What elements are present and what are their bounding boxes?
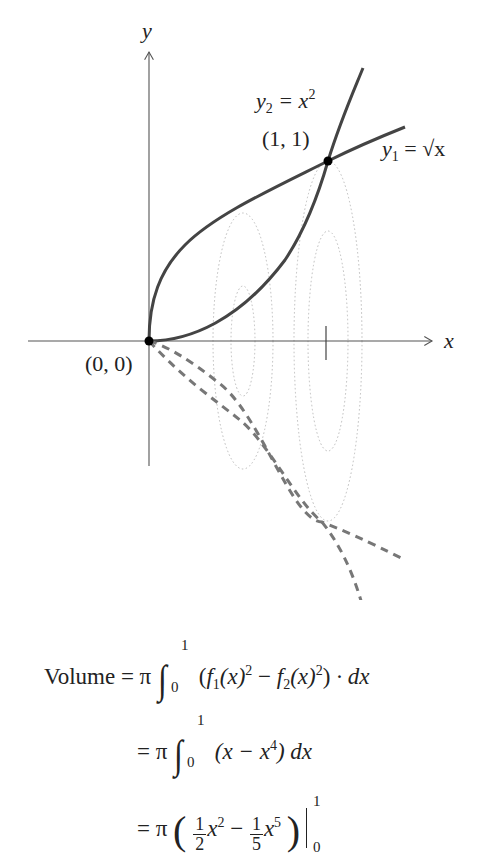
eval-upper: 1 xyxy=(313,794,321,809)
y1-var: y xyxy=(382,136,392,161)
y2-sub: 2 xyxy=(266,101,273,116)
integral-sign: ∫ xyxy=(158,660,167,700)
term2-sup: 5 xyxy=(274,815,281,830)
term2: x xyxy=(264,816,274,841)
integral-sign: ∫ xyxy=(174,735,183,775)
f2-arg: (x) xyxy=(290,664,316,689)
reflected-curve-y2 xyxy=(149,341,405,560)
equals-pi: = π xyxy=(137,816,167,841)
f1-sub: 1 xyxy=(213,677,220,692)
y1-rhs: = √x xyxy=(404,136,445,161)
dx: · dx xyxy=(330,664,369,689)
minus: − xyxy=(224,816,248,841)
upper-limit: 1 xyxy=(197,713,205,728)
y1-sub: 1 xyxy=(392,149,399,164)
y2-sup: 2 xyxy=(308,87,315,102)
integrand-close: ) dx xyxy=(277,739,312,764)
point-origin xyxy=(145,337,154,346)
volume-equation-line-3: = π ( 12x2 − 15x5 ) 1 0 xyxy=(137,808,327,853)
y1-curve-label: y1 = √x xyxy=(382,138,445,164)
equals-pi: = π xyxy=(137,739,167,764)
x-axis-label: x xyxy=(444,330,454,352)
y2-var: y xyxy=(256,88,266,113)
point-1-1 xyxy=(324,157,333,166)
y-axis-label: y xyxy=(142,20,152,42)
curve-y1-sqrt-x xyxy=(149,127,405,341)
fraction-half: 12 xyxy=(193,815,206,853)
lower-limit: 0 xyxy=(187,755,195,770)
point-1-1-label: (1, 1) xyxy=(262,128,310,150)
f1-arg: (x) xyxy=(220,664,246,689)
big-open-paren: ( xyxy=(173,808,186,853)
integrand-sup: 4 xyxy=(270,738,277,753)
solid-of-revolution-diagram xyxy=(0,0,495,600)
y2-curve-label: y2 = x2 xyxy=(256,88,315,116)
evaluation-bar: 1 0 xyxy=(306,808,327,848)
reflected-curve-y1 xyxy=(149,341,362,600)
lower-limit: 0 xyxy=(171,680,179,695)
y2-rhs: = x xyxy=(278,88,308,113)
fraction-fifth: 15 xyxy=(250,815,263,853)
eval-lower: 0 xyxy=(313,840,321,853)
big-close-paren: ) xyxy=(287,808,300,853)
upper-limit: 1 xyxy=(181,638,189,653)
origin-label: (0, 0) xyxy=(85,353,133,375)
minus: − xyxy=(252,664,276,689)
integrand-open: (x − x xyxy=(215,739,270,764)
term1: x xyxy=(207,816,217,841)
volume-label: Volume xyxy=(44,664,115,689)
volume-equation-line-1: Volume = π ∫ 1 0 (f1(x)2 − f2(x)2) · dx xyxy=(44,660,369,700)
f2-sup: 2 xyxy=(316,663,323,678)
volume-equation-line-2: = π ∫ 1 0 (x − x4) dx xyxy=(137,735,312,775)
equals-pi: = π xyxy=(121,664,151,689)
